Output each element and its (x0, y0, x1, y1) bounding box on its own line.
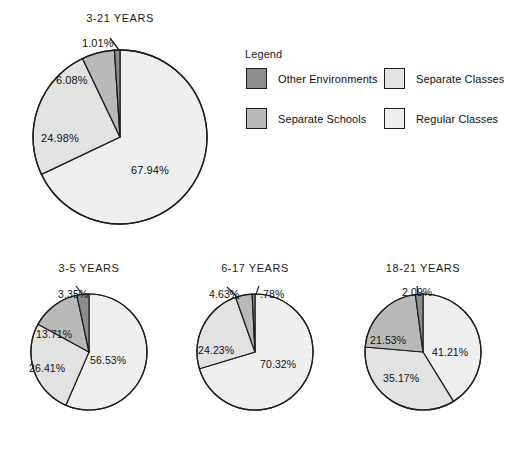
legend-item-separate-schools[interactable]: Separate Schools (246, 108, 366, 129)
legend-swatch-other-environments (246, 68, 267, 89)
legend-swatch-regular-classes (384, 108, 405, 129)
pie-chart-6-17-years: 6-17 YEARS 4.63% .78% 24.23% 70.32% (180, 262, 330, 427)
pie-label-regular-classes-3-5: 56.53% (90, 354, 126, 366)
pie-title-3-21-years: 3-21 YEARS (0, 12, 240, 24)
legend-label-separate-classes: Separate Classes (416, 73, 504, 85)
pie-label-regular-classes-3-21: 67.94% (131, 164, 169, 176)
pie-label-other-environments-3-21: 1.01% (82, 37, 114, 49)
legend-swatch-separate-classes (384, 68, 405, 89)
pie-label-separate-classes-3-21: 24.98% (41, 132, 79, 144)
pie-label-other-environments-18-21: 2.09% (402, 286, 432, 298)
pie-title-6-17-years: 6-17 YEARS (180, 262, 330, 274)
pie-title-18-21-years: 18-21 YEARS (348, 262, 498, 274)
pie-label-regular-classes-6-17: 70.32% (260, 358, 296, 370)
legend-swatch-separate-schools (246, 108, 267, 129)
pie-label-separate-classes-3-5: 26.41% (29, 362, 65, 374)
pie-chart-18-21-years: 18-21 YEARS 2.09% 21.53% 35.17% 41.21% (348, 262, 498, 427)
pie-label-regular-classes-18-21: 41.21% (432, 346, 468, 358)
pie-label-separate-schools-3-5: 13.71% (36, 328, 72, 340)
legend-label-other-environments: Other Environments (278, 73, 378, 85)
legend-label-separate-schools: Separate Schools (278, 113, 366, 125)
legend-item-other-environments[interactable]: Other Environments (246, 68, 378, 89)
pie-label-separate-schools-3-21: 6.08% (56, 74, 88, 86)
legend-title: Legend (245, 48, 282, 60)
pie-graphic-18-21-years (348, 284, 498, 424)
pie-label-other-environments-3-5: 3.35% (58, 288, 88, 300)
legend-item-separate-classes[interactable]: Separate Classes (384, 68, 504, 89)
pie-label-other-environments-6-17: .78% (260, 288, 284, 300)
pie-title-3-5-years: 3-5 YEARS (14, 262, 164, 274)
pie-graphic-3-21-years (0, 37, 240, 247)
legend: Legend Other Environments Separate Schoo… (245, 48, 507, 144)
pie-graphic-3-5-years (14, 284, 164, 424)
pie-label-separate-schools-18-21: 21.53% (370, 334, 406, 346)
pie-label-separate-classes-18-21: 35.17% (383, 372, 419, 384)
pie-chart-3-21-years: 3-21 YEARS 1.01% 6.08% 24.98% 67.94% (0, 12, 240, 247)
pie-chart-3-5-years: 3-5 YEARS 3.35% 13.71% 26.41% 56.53% (14, 262, 164, 427)
pie-label-separate-classes-6-17: 24.23% (198, 344, 234, 356)
cutoff-header-strip (0, 0, 513, 7)
legend-label-regular-classes: Regular Classes (416, 113, 498, 125)
pie-label-leader-line (256, 286, 259, 294)
pie-label-separate-schools-6-17: 4.63% (209, 288, 239, 300)
legend-item-regular-classes[interactable]: Regular Classes (384, 108, 498, 129)
